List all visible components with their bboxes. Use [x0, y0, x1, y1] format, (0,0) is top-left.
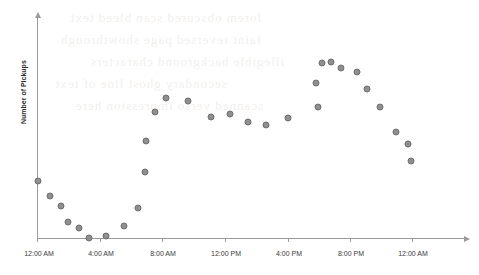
data-point — [135, 205, 142, 212]
data-point — [47, 193, 54, 200]
data-point — [185, 98, 192, 105]
data-point — [58, 203, 65, 210]
data-point — [227, 111, 234, 118]
data-point — [408, 158, 415, 165]
x-axis-arrow-icon — [464, 236, 470, 242]
data-point — [65, 219, 72, 226]
x-axis-tick — [412, 238, 413, 242]
data-point — [313, 80, 320, 87]
y-axis-line — [37, 18, 38, 238]
data-point — [393, 129, 400, 136]
x-axis-tick — [162, 238, 163, 242]
x-axis-tick — [350, 238, 351, 242]
data-point — [315, 104, 322, 111]
data-point — [142, 169, 149, 176]
x-tick-label: 12:00 AM — [24, 250, 54, 257]
ghost-text-line-3: illegible background characters — [90, 54, 284, 70]
data-point — [364, 86, 371, 93]
x-axis-line — [37, 238, 464, 239]
x-tick-label: 12:00 PM — [211, 250, 241, 257]
ghost-text-line-4: secondary ghost line of text — [55, 76, 227, 92]
x-axis-tick — [288, 238, 289, 242]
data-point — [208, 114, 215, 121]
data-point — [152, 109, 159, 116]
x-tick-label: 12:00 AM — [398, 250, 428, 257]
data-point — [163, 95, 170, 102]
scatter-chart-figure: lorem obscured scan bleed text faint rev… — [0, 0, 479, 275]
x-tick-label: 4:00 AM — [88, 250, 114, 257]
x-tick-label: 8:00 PM — [338, 250, 364, 257]
data-point — [245, 119, 252, 126]
y-axis-arrow-icon — [35, 12, 41, 18]
data-point — [86, 235, 93, 242]
data-point — [319, 60, 326, 67]
data-point — [377, 104, 384, 111]
x-axis-tick — [37, 238, 38, 242]
data-point — [263, 122, 270, 129]
data-point — [143, 138, 150, 145]
data-point — [285, 115, 292, 122]
data-point — [103, 233, 110, 240]
data-point — [121, 223, 128, 230]
data-point — [76, 225, 83, 232]
ghost-text-line-1: lorem obscured scan bleed text — [70, 10, 261, 26]
data-point — [328, 59, 335, 66]
data-point — [405, 141, 412, 148]
x-axis-tick — [225, 238, 226, 242]
data-point — [35, 178, 42, 185]
data-point — [338, 65, 345, 72]
y-axis-label: Number of Pickups — [20, 60, 27, 124]
x-tick-label: 4:00 PM — [276, 250, 302, 257]
data-point — [354, 69, 361, 76]
ghost-text-line-5: scanned verso impression here — [75, 98, 263, 114]
ghost-text-line-2: faint reversed page showthrough — [60, 32, 261, 48]
x-axis-tick — [100, 238, 101, 242]
x-tick-label: 8:00 AM — [150, 250, 176, 257]
